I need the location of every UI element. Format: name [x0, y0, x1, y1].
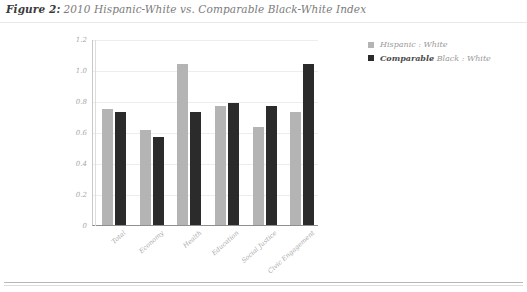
- legend-swatch-icon: [368, 55, 374, 61]
- legend-item: Hispanic : White: [368, 38, 491, 51]
- figure-label: Figure 2:: [6, 3, 60, 15]
- bar: [115, 112, 126, 225]
- chart-legend: Hispanic : White Comparable Black : Whit…: [368, 38, 491, 64]
- bar: [177, 64, 188, 225]
- y-axis-tick-label: 0.8: [76, 98, 87, 106]
- y-axis-tick-label: 0: [83, 222, 87, 230]
- x-axis-tick-label: Health: [181, 229, 203, 250]
- figure-caption: Figure 2:2010 Hispanic-White vs. Compara…: [6, 3, 366, 15]
- y-axis-tick-label: 0.2: [76, 191, 87, 199]
- legend-item: Comparable Black : White: [368, 51, 491, 64]
- axis-inner-line: [95, 40, 96, 226]
- y-axis-tick-label: 1.2: [76, 36, 87, 44]
- bar: [190, 112, 201, 225]
- bar: [290, 112, 301, 225]
- bar: [303, 64, 314, 225]
- plot-area: 00.20.40.60.81.01.2 TotalEconomyHealthEd…: [92, 40, 318, 226]
- y-axis-tick-label: 0.4: [76, 160, 87, 168]
- footer-divider: [4, 282, 523, 283]
- bar: [253, 127, 264, 225]
- y-axis-tick-label: 1.0: [76, 67, 87, 75]
- x-axis-tick-label: Social Justice: [240, 229, 278, 265]
- bar: [153, 137, 164, 225]
- bar: [266, 106, 277, 225]
- footer-divider-secondary: [4, 285, 523, 286]
- bar: [102, 109, 113, 225]
- bar: [140, 130, 151, 225]
- legend-emphasis: Comparable: [380, 53, 434, 63]
- legend-label-comparable-black-white: Comparable Black : White: [380, 53, 491, 63]
- x-axis-tick-label: Total: [110, 229, 127, 246]
- legend-rest: Black : White: [437, 54, 491, 63]
- y-axis-tick-label: 0.6: [76, 129, 87, 137]
- legend-swatch-icon: [368, 42, 374, 48]
- bar: [215, 106, 226, 225]
- x-axis-tick-label: Education: [211, 229, 241, 257]
- bar-series-container: [93, 40, 318, 225]
- x-axis-tick-label: Economy: [138, 229, 166, 255]
- figure-title: 2010 Hispanic-White vs. Comparable Black…: [63, 3, 366, 15]
- bar-chart: 00.20.40.60.81.01.2 TotalEconomyHealthEd…: [0, 26, 527, 276]
- legend-label-hispanic-white: Hispanic : White: [380, 40, 447, 49]
- bar: [228, 103, 239, 225]
- header-divider: [0, 22, 527, 23]
